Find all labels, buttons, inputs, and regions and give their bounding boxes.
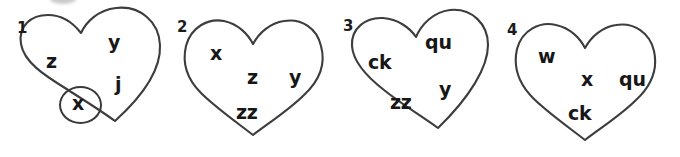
sound-4-3: ck (568, 104, 592, 123)
sound-4-0: w (538, 47, 555, 66)
sound-1-0: z (46, 52, 57, 71)
sound-3-2: y (439, 80, 451, 99)
heart-item-3[interactable]: 3 ck qu y zz (340, 0, 505, 157)
sound-4-2: qu (619, 70, 646, 89)
sound-3-0: ck (368, 53, 392, 72)
heart-item-4[interactable]: 4 w x qu ck (505, 0, 675, 157)
heart-outline-3 (340, 0, 505, 157)
sound-1-2: j (115, 75, 121, 94)
sound-4-1: x (581, 70, 593, 89)
heart-outline-1 (8, 0, 178, 157)
worksheet-canvas: 1 z y j x 2 x z y zz 3 ck qu y zz 4 w x … (0, 0, 680, 157)
heart-index-2: 2 (177, 20, 187, 35)
sound-2-2: y (289, 68, 301, 87)
sound-1-3: x (72, 94, 84, 113)
heart-index-3: 3 (343, 19, 353, 34)
heart-item-1[interactable]: 1 z y j x (8, 0, 178, 157)
sound-2-0: x (210, 44, 222, 63)
heart-index-4: 4 (507, 23, 517, 38)
sound-3-1: qu (425, 33, 452, 52)
sound-3-3: zz (390, 93, 412, 112)
sound-2-3: zz (236, 103, 258, 122)
heart-item-2[interactable]: 2 x z y zz (175, 0, 340, 157)
sound-1-1: y (108, 33, 120, 52)
heart-index-1: 1 (17, 21, 27, 36)
sound-2-1: z (247, 68, 258, 87)
